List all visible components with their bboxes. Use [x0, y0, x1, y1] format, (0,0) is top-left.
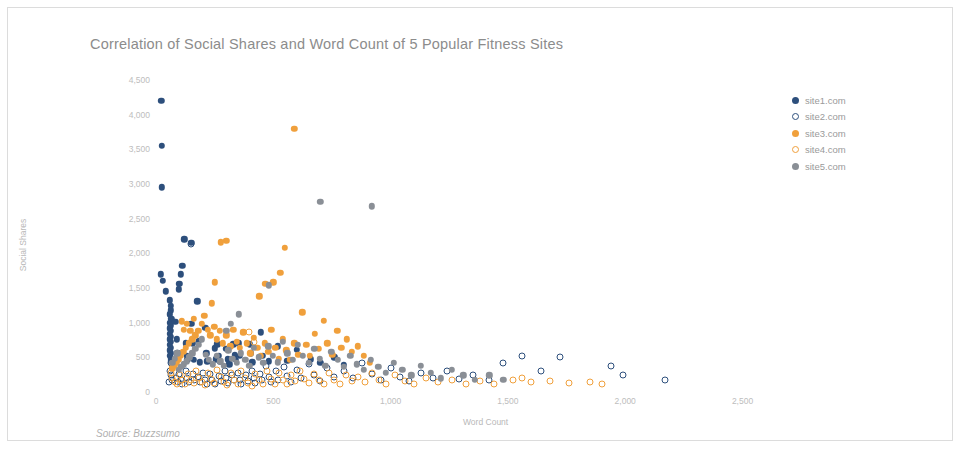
data-point	[158, 143, 164, 149]
legend-item[interactable]: site5.com	[792, 158, 912, 175]
data-point	[158, 98, 164, 104]
data-point	[382, 380, 389, 387]
data-point	[235, 311, 241, 317]
data-point	[438, 375, 444, 381]
y-tick-label: 3,500	[129, 144, 150, 154]
data-point	[271, 380, 278, 387]
data-point	[291, 125, 297, 131]
legend-marker-icon	[792, 146, 799, 153]
data-point	[268, 326, 274, 332]
data-point	[179, 263, 185, 269]
data-point	[211, 379, 218, 386]
x-tick-label: 1,500	[497, 396, 518, 406]
data-point	[448, 376, 455, 383]
data-point	[289, 357, 295, 363]
data-point	[368, 357, 374, 363]
legend-marker-icon	[792, 163, 799, 170]
data-point	[274, 359, 280, 365]
data-point	[369, 203, 375, 209]
legend-item[interactable]: site4.com	[792, 142, 912, 159]
data-point	[238, 368, 245, 375]
legend-label: site2.com	[805, 111, 846, 122]
data-point	[265, 282, 271, 288]
data-point	[234, 380, 241, 387]
data-point	[361, 353, 367, 359]
data-point	[354, 373, 361, 380]
data-point	[324, 340, 330, 346]
data-point	[211, 279, 217, 285]
source-caption: Source: Buzzsumo	[96, 428, 180, 439]
data-point	[368, 369, 375, 376]
data-point	[401, 377, 408, 384]
data-point	[383, 369, 389, 375]
data-point	[238, 350, 244, 356]
data-point	[224, 382, 231, 389]
data-point	[299, 309, 305, 315]
scatter-plot-area	[156, 80, 766, 392]
x-axis-title: Word Count	[463, 417, 508, 427]
data-point	[399, 367, 405, 373]
data-point	[448, 367, 454, 373]
data-point	[264, 368, 271, 375]
x-axis-ticks: 05001,0001,5002,0002,500	[156, 396, 766, 410]
x-tick-label: 2,500	[732, 396, 753, 406]
data-point	[334, 328, 340, 334]
data-point	[565, 379, 572, 386]
data-point	[462, 380, 469, 387]
data-point	[336, 380, 343, 387]
data-point	[230, 326, 236, 332]
y-tick-label: 4,000	[129, 110, 150, 120]
data-point	[408, 372, 414, 378]
y-tick-label: 0	[145, 387, 150, 397]
data-point	[209, 300, 215, 306]
data-point	[422, 375, 429, 382]
data-point	[201, 382, 208, 389]
data-point	[303, 342, 309, 348]
data-point	[248, 382, 255, 389]
data-point	[361, 379, 368, 386]
data-point	[218, 239, 224, 245]
data-point	[537, 368, 544, 375]
data-point	[359, 359, 366, 366]
data-point	[347, 353, 353, 359]
x-tick-label: 1,000	[380, 396, 401, 406]
data-point	[193, 368, 200, 375]
x-tick-label: 0	[154, 396, 159, 406]
data-point	[509, 376, 516, 383]
data-point	[556, 354, 563, 361]
legend-marker-icon	[792, 97, 799, 104]
legend-item[interactable]: site2.com	[792, 109, 912, 126]
legend-item[interactable]: site1.com	[792, 92, 912, 109]
data-point	[275, 369, 282, 376]
chart-legend: site1.comsite2.comsite3.comsite4.comsite…	[792, 92, 912, 175]
data-point	[247, 350, 253, 356]
data-point	[297, 368, 304, 375]
data-point	[277, 270, 283, 276]
data-point	[157, 271, 163, 277]
y-tick-label: 1,500	[129, 283, 150, 293]
data-point	[320, 380, 327, 387]
data-point	[188, 240, 195, 247]
y-tick-label: 3,000	[129, 179, 150, 189]
data-point	[196, 359, 202, 365]
data-point	[279, 339, 285, 345]
data-point	[326, 369, 333, 376]
data-point	[305, 379, 312, 386]
data-point	[619, 372, 626, 379]
data-point	[246, 329, 253, 336]
y-tick-label: 2,000	[129, 248, 150, 258]
data-point	[355, 343, 361, 349]
x-tick-label: 500	[266, 396, 280, 406]
data-point	[343, 336, 349, 342]
data-point	[223, 238, 229, 244]
data-point	[608, 363, 615, 370]
data-point	[587, 379, 594, 386]
data-point	[598, 381, 605, 388]
data-point	[214, 366, 221, 373]
data-point	[417, 362, 423, 368]
legend-marker-icon	[792, 113, 799, 120]
data-point	[201, 313, 207, 319]
data-point	[519, 375, 526, 382]
legend-label: site4.com	[805, 144, 846, 155]
legend-item[interactable]: site3.com	[792, 125, 912, 142]
